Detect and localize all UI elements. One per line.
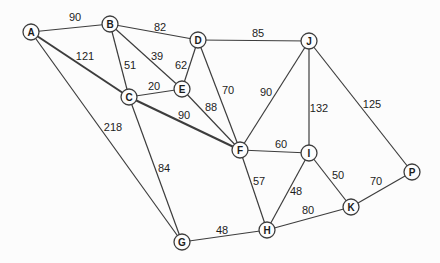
edge-weight-A-C: 121 [76,50,94,62]
node-F: F [232,142,248,158]
edge-weight-A-B: 90 [69,11,81,23]
edge-weight-F-H: 57 [253,175,265,187]
edge-weight-B-E: 39 [151,50,163,62]
edge-F-I [240,150,309,153]
node-label-H: H [263,225,270,236]
edge-J-F [240,41,309,150]
graph-svg: 9082851215139622070901321258890218846057… [0,0,440,263]
node-P: P [404,164,420,180]
edge-weight-E-F: 88 [205,101,217,113]
edge-weight-F-I: 60 [275,138,287,150]
edge-B-E [110,24,182,89]
edge-weight-D-E: 62 [175,59,187,71]
edge-weight-B-C: 51 [124,59,136,71]
edge-weight-G-H: 48 [216,224,228,236]
edge-I-H [267,153,309,230]
graph-diagram: 9082851215139622070901321258890218846057… [0,0,440,263]
node-J: J [301,33,317,49]
node-E: E [174,81,190,97]
edge-D-J [198,40,309,41]
edge-weight-B-D: 82 [154,21,166,33]
edge-A-B [31,24,110,32]
node-label-C: C [125,92,132,103]
node-label-G: G [178,237,186,248]
node-I: I [301,145,317,161]
node-G: G [174,234,190,250]
edge-weight-C-E: 20 [148,80,160,92]
edge-weight-J-I: 132 [310,102,328,114]
node-C: C [121,89,137,105]
node-label-A: A [27,27,34,38]
edge-F-H [240,150,267,230]
edge-weight-D-F: 70 [222,84,234,96]
edge-weight-I-K: 50 [332,169,344,181]
edge-A-G [31,32,182,242]
node-label-D: D [194,35,201,46]
node-H: H [259,222,275,238]
edge-weight-I-H: 48 [290,185,302,197]
node-A: A [23,24,39,40]
node-label-J: J [306,36,312,47]
edge-weight-A-G: 218 [104,121,122,133]
edge-weight-D-J: 85 [252,27,264,39]
edge-I-K [309,153,351,207]
edge-weight-C-G: 84 [158,162,170,174]
edge-E-F [182,89,240,150]
node-D: D [190,32,206,48]
edge-weight-H-K: 80 [302,204,314,216]
edge-weight-K-P: 70 [370,175,382,187]
edge-weight-C-F: 90 [178,109,190,121]
node-label-B: B [106,19,113,30]
edge-weight-J-F: 90 [260,86,272,98]
node-label-P: P [409,167,416,178]
edge-weight-J-P: 125 [363,98,381,110]
node-label-E: E [179,84,186,95]
node-K: K [343,199,359,215]
node-label-F: F [237,145,243,156]
node-B: B [102,16,118,32]
node-label-K: K [347,202,355,213]
node-label-I: I [308,148,311,159]
